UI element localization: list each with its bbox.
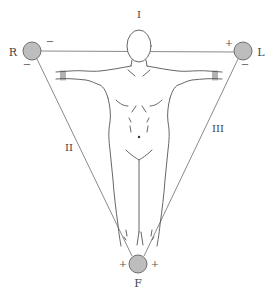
lead-III-label: III [212,124,224,134]
lead-III-line [144,59,238,256]
lead-I-label: I [137,10,141,20]
electrode-F-icon [129,255,147,273]
human-figure-icon [56,30,222,246]
electrodes [23,42,252,273]
electrode-F-label: F [134,278,142,289]
electrode-R-icon [23,42,41,60]
polarity-F-lead-III: + [151,259,159,269]
polarity-F-lead-II: + [119,259,127,269]
lead-lines [37,51,238,256]
lead-II-label: II [65,143,73,153]
polarity-R-lead-II: − [23,60,31,70]
polarity-R-lead-I: − [46,37,54,47]
polarity-L-lead-I: + [225,38,233,48]
electrode-L-label: L [257,47,264,58]
polarity-L-lead-III: − [241,60,249,70]
electrode-L-icon [234,42,252,60]
electrode-R-label: R [9,47,17,58]
head-outline [127,30,151,62]
